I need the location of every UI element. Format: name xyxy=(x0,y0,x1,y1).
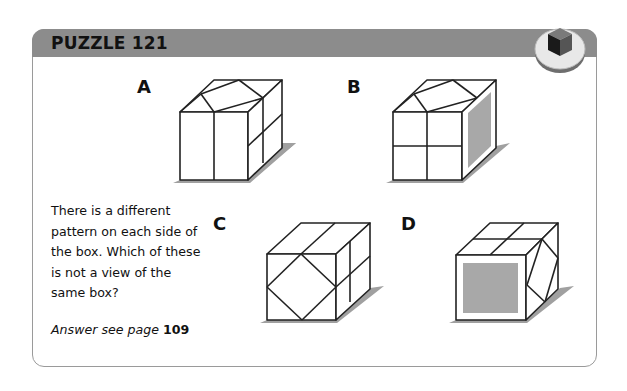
box-option-c[interactable] xyxy=(260,223,384,323)
answer-reference: Answer see page 109 xyxy=(51,322,189,337)
answer-prefix: Answer see page xyxy=(51,322,159,337)
answer-page: 109 xyxy=(163,322,189,337)
box-option-d[interactable] xyxy=(449,223,574,323)
box-option-a[interactable] xyxy=(173,80,296,183)
box-option-b[interactable] xyxy=(386,80,510,183)
question-text: There is a different pattern on each sid… xyxy=(51,201,201,304)
